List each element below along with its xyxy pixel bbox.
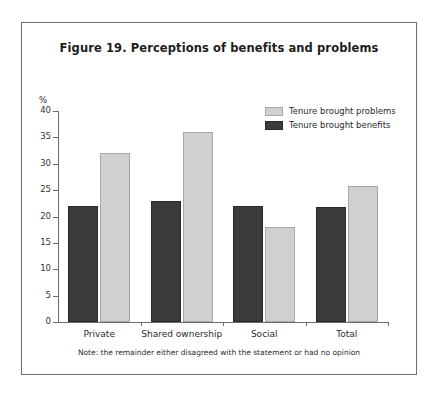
- bar-group: [223, 111, 306, 322]
- plot-area: 0510152025303540 PrivateShared ownership…: [58, 111, 388, 322]
- bar-group: [306, 111, 389, 322]
- x-axis-label-social: Social: [223, 329, 306, 339]
- bar-group: [58, 111, 141, 322]
- bar-group: [141, 111, 224, 322]
- bar-problems: [265, 227, 295, 322]
- y-axis-tick-label: 0: [46, 316, 51, 326]
- bar-problems: [348, 186, 378, 322]
- y-axis-tick-mark: [53, 322, 58, 323]
- y-axis-tick-label: 5: [46, 290, 51, 300]
- y-axis-tick-label: 10: [40, 263, 51, 273]
- bar-problems: [183, 132, 213, 322]
- bar-benefits: [151, 201, 181, 322]
- x-axis-label-private: Private: [58, 329, 141, 339]
- x-axis-label-shared-ownership: Shared ownership: [141, 329, 224, 339]
- bar-problems: [100, 153, 130, 322]
- x-axis-label-total: Total: [306, 329, 389, 339]
- y-axis-tick-label: 15: [40, 237, 51, 247]
- x-axis-tick-mark: [388, 322, 389, 326]
- y-axis-tick-label: 30: [40, 158, 51, 168]
- y-axis-tick-label: 20: [40, 211, 51, 221]
- y-axis-tick-label: 35: [40, 131, 51, 141]
- x-axis-tick-mark: [223, 322, 224, 326]
- bar-benefits: [316, 207, 346, 322]
- figure-title: Figure 19. Perceptions of benefits and p…: [22, 41, 416, 55]
- x-axis-tick-mark: [141, 322, 142, 326]
- y-axis-tick-label: 40: [40, 105, 51, 115]
- y-axis-tick-label: 25: [40, 184, 51, 194]
- bar-benefits: [68, 206, 98, 322]
- figure-note: Note: the remainder either disagreed wit…: [22, 348, 416, 357]
- figure-frame: Figure 19. Perceptions of benefits and p…: [21, 22, 417, 375]
- x-axis-tick-mark: [306, 322, 307, 326]
- y-axis-unit-label: %: [39, 95, 47, 105]
- bar-benefits: [233, 206, 263, 322]
